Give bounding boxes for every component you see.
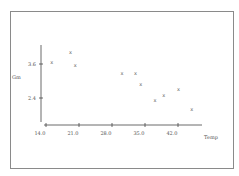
data-point-marker: x bbox=[134, 70, 137, 76]
data-point-marker: x bbox=[74, 62, 77, 68]
data-point-marker: x bbox=[50, 59, 53, 65]
data-point-marker: x bbox=[120, 70, 123, 76]
data-point-marker: x bbox=[162, 92, 165, 98]
data-points: xxxxxxxxxx bbox=[50, 49, 193, 112]
scatter-plot: 3.62.414.021.028.035.042.0 xxxxxxxxxx Gm… bbox=[0, 0, 239, 176]
x-tick-label: 14.0 bbox=[34, 130, 45, 136]
data-point-marker: x bbox=[69, 49, 72, 55]
data-point-marker: x bbox=[139, 81, 142, 87]
x-tick-label: 42.0 bbox=[166, 130, 177, 136]
y-axis-label: Gm bbox=[12, 74, 21, 80]
data-point-marker: x bbox=[177, 86, 180, 92]
y-tick-label: 3.6 bbox=[28, 61, 36, 67]
x-tick-label: 35.0 bbox=[133, 130, 144, 136]
x-tick-label: 21.0 bbox=[67, 130, 78, 136]
axes: 3.62.414.021.028.035.042.0 bbox=[28, 45, 202, 136]
x-tick-label: 28.0 bbox=[100, 130, 111, 136]
data-point-marker: x bbox=[190, 106, 193, 112]
data-point-marker: x bbox=[153, 97, 156, 103]
x-axis-label: Temp bbox=[204, 134, 218, 141]
y-tick-label: 2.4 bbox=[28, 95, 36, 101]
